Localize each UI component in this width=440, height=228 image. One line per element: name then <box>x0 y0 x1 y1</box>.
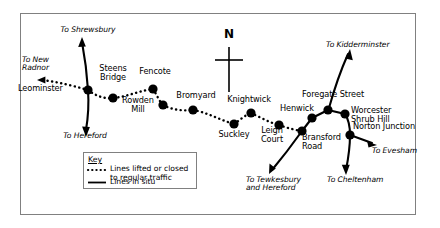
label-to-kidderminster: To Kidderminster <box>326 41 390 49</box>
key-entry-in-situ-label: Lines in situ <box>110 178 155 187</box>
arrow-to-shrewsbury <box>78 37 86 47</box>
station-label-foregate-street: Foregate Street <box>302 90 364 99</box>
line-norton-cheltenham <box>346 135 350 170</box>
label-to-shrewsbury: To Shrewsbury <box>61 26 116 34</box>
station-dot-rowden-mill <box>158 100 167 109</box>
compass-letter-n: N <box>224 27 234 41</box>
station-dot-leominster <box>83 85 92 94</box>
station-label-rowden-mill: Rowden Mill <box>122 96 154 114</box>
station-label-bromyard: Bromyard <box>176 91 215 100</box>
station-label-norton-junction: Norton Junction <box>353 122 415 131</box>
arrow-to-cheltenham <box>342 165 350 175</box>
station-dot-fencote <box>148 84 157 93</box>
station-dot-knightwick <box>246 108 255 117</box>
station-dot-bromyard <box>188 105 197 114</box>
north-arrow <box>215 47 243 92</box>
station-dot-worcester-shrub-hill <box>340 109 349 118</box>
label-to-cheltenham: To Cheltenham <box>327 176 383 184</box>
label-to-tewkesbury-and-hereford: To Tewkesbury and Hereford <box>246 176 301 193</box>
station-dot-foregate-street <box>323 105 332 114</box>
station-label-leominster: Leominster <box>18 84 63 93</box>
line-foregate-kidderminster <box>329 54 348 108</box>
station-dot-steens-bridge <box>108 93 117 102</box>
station-label-henwick: Henwick <box>280 104 314 113</box>
station-label-knightwick: Knightwick <box>227 95 271 104</box>
line-bromyard-suckley <box>193 110 234 124</box>
label-to-evesham: To Evesham <box>372 147 417 155</box>
station-dot-suckley <box>229 119 238 128</box>
station-dot-norton-junction <box>345 130 354 139</box>
station-label-steens-bridge: Steens Bridge <box>99 64 126 82</box>
key-title: Key <box>88 155 102 164</box>
station-label-bransford-road: Bransford Road <box>302 133 341 151</box>
arrow-to-kidderminster <box>345 49 353 60</box>
station-label-leigh-court: Leigh Court <box>261 126 283 144</box>
lines-lifted-or-closed <box>42 80 302 131</box>
railway-route-map: N To Shrewsbury To New Radnor To Herefor… <box>0 0 440 228</box>
station-label-fencote: Fencote <box>139 67 171 76</box>
station-dot-henwick <box>307 113 316 122</box>
label-to-hereford: To Hereford <box>63 132 107 140</box>
station-label-suckley: Suckley <box>218 130 249 139</box>
label-to-new-radnor: To New Radnor <box>22 56 49 73</box>
